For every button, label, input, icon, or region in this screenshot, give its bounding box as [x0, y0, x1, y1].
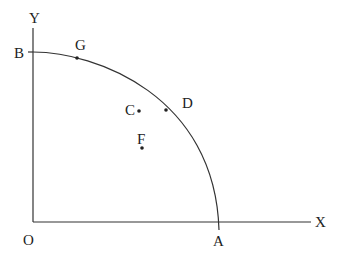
point-d: [164, 108, 168, 112]
frontier-curve: [33, 52, 219, 230]
ppf-diagram: Y X O B A G D C F: [0, 0, 341, 254]
point-g: [75, 56, 79, 60]
point-c: [137, 109, 141, 113]
y-axis-label: Y: [29, 10, 40, 26]
label-d: D: [182, 95, 193, 111]
label-b: B: [14, 45, 24, 61]
label-a: A: [213, 233, 224, 249]
diagram-svg: Y X O B A G D C F: [0, 0, 341, 254]
origin-label: O: [23, 232, 34, 248]
label-g: G: [75, 37, 86, 53]
label-f: F: [137, 131, 145, 147]
label-c: C: [125, 102, 135, 118]
x-axis-label: X: [315, 214, 326, 230]
